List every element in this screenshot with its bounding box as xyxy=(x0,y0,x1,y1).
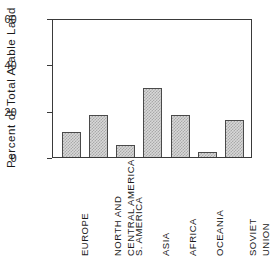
x-axis-tick-labels: EUROPENORTH ANDCENTRAL AMERICAS. AMERICA… xyxy=(52,160,252,260)
bar-series xyxy=(53,20,251,157)
y-tick-mark xyxy=(47,158,52,159)
bar-slot xyxy=(221,20,248,157)
y-axis-title: Percent of Total Arable Land xyxy=(2,8,20,168)
x-tick-label: ASIA xyxy=(159,156,173,256)
y-tick-label: 0 xyxy=(0,153,17,163)
bar xyxy=(89,115,108,157)
x-tick-label-line: ASIA xyxy=(159,156,172,256)
x-tick-label-line: UNION xyxy=(259,156,272,256)
x-tick-label-line: AFRICA xyxy=(186,156,199,256)
y-tick-label: 20 xyxy=(0,107,17,117)
x-tick-label: OCEANIA xyxy=(213,156,227,256)
x-tick-label-line: S. AMERICA xyxy=(132,156,145,256)
x-tick-label: S. AMERICA xyxy=(132,156,146,256)
y-tick-label: 40 xyxy=(0,60,17,70)
bar xyxy=(62,132,81,157)
x-tick-label: SOVIETUNION xyxy=(246,156,272,256)
x-tick-label-line: EUROPE xyxy=(78,156,91,256)
bar xyxy=(143,88,162,158)
bar-chart-figure: Percent of Total Arable Land 0204060 EUR… xyxy=(0,0,272,269)
bar-slot xyxy=(58,20,85,157)
bar-slot xyxy=(167,20,194,157)
x-tick-label: EUROPE xyxy=(78,156,92,256)
bar-slot xyxy=(139,20,166,157)
x-tick-label-line: SOVIET xyxy=(246,156,259,256)
bar-slot xyxy=(194,20,221,157)
plot-area xyxy=(52,19,252,158)
x-tick-label: AFRICA xyxy=(186,156,200,256)
bar xyxy=(225,120,244,157)
bar xyxy=(171,115,190,157)
bar-slot xyxy=(112,20,139,157)
x-tick-label-line: OCEANIA xyxy=(213,156,226,256)
bar-slot xyxy=(85,20,112,157)
y-tick-label: 60 xyxy=(0,14,17,24)
x-tick-label-line: NORTH AND xyxy=(111,156,124,256)
